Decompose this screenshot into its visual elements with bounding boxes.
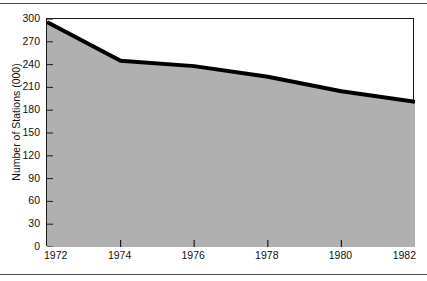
y-tick-label: 60 (6, 195, 40, 205)
y-tick-label: 270 (6, 36, 40, 46)
y-tick-label: 300 (6, 13, 40, 23)
x-tick-label: 1978 (237, 249, 297, 261)
y-tick-label: 0 (6, 241, 40, 251)
top-divider-rule (0, 3, 427, 4)
x-tick-label: 1974 (90, 249, 150, 261)
y-tick-label: 120 (6, 150, 40, 160)
area-fill-series (47, 22, 415, 247)
y-tick-label: 30 (6, 218, 40, 228)
y-tick-label: 90 (6, 173, 40, 183)
x-tick-label: 1976 (163, 249, 223, 261)
chart-plot-svg (47, 19, 415, 247)
y-tick-label: 240 (6, 59, 40, 69)
x-tick-label: 1982 (356, 249, 416, 261)
x-axis-tick-labels: 197219741976197819801982 (46, 249, 414, 265)
y-tick-label: 150 (6, 127, 40, 137)
chart-figure: Number of Stations (000) 030609012015018… (0, 6, 427, 272)
bottom-divider-rule (0, 274, 427, 275)
y-tick-label: 210 (6, 81, 40, 91)
plot-area (46, 18, 414, 246)
y-axis-tick-labels: 0306090120150180210240270300 (0, 18, 40, 246)
y-tick-label: 180 (6, 104, 40, 114)
